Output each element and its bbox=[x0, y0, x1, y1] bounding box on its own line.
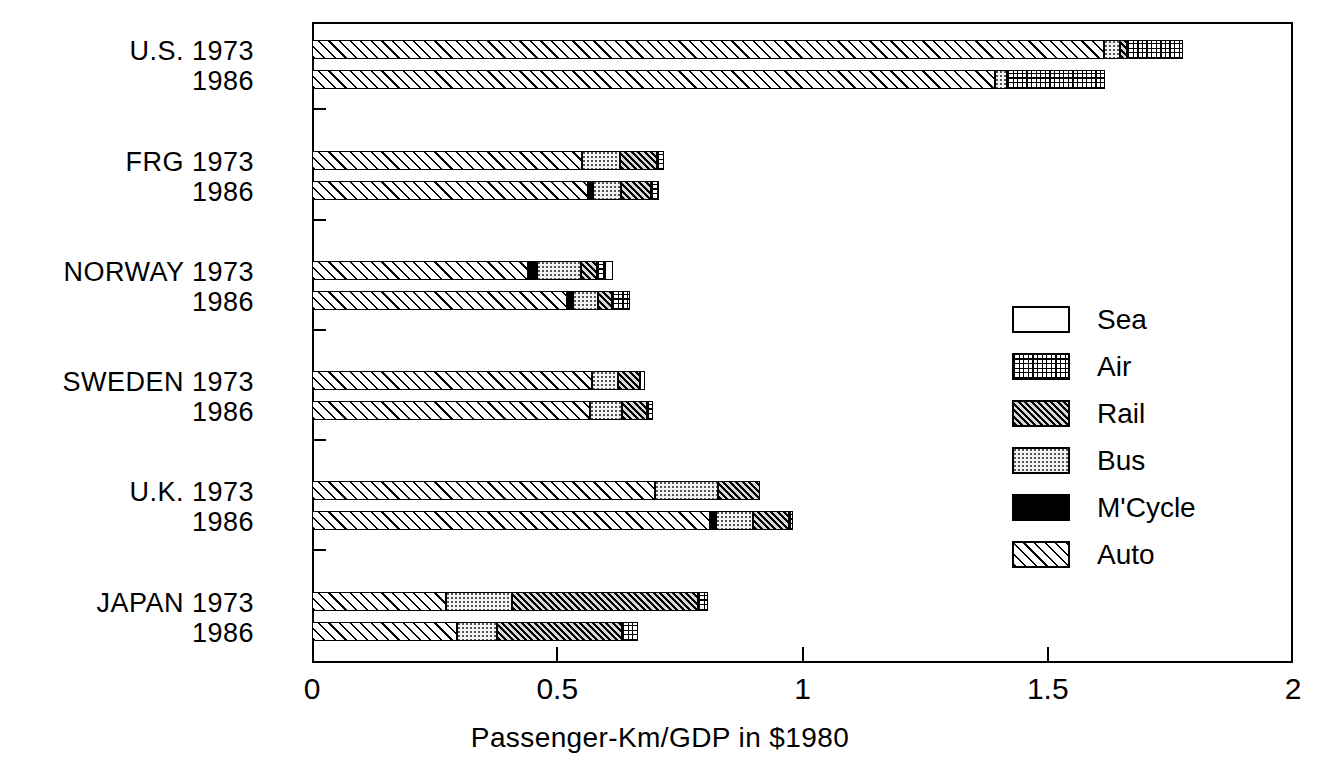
bar-segment-auto bbox=[312, 481, 655, 500]
bar-segment-auto bbox=[312, 371, 592, 390]
x-axis-tick-label: 0.5 bbox=[536, 672, 578, 706]
bar-segment-rail bbox=[581, 261, 597, 280]
bar-segment-bus bbox=[457, 622, 497, 641]
bar-norway-1986 bbox=[312, 291, 630, 310]
y-axis-label-frg-1986: 1986 bbox=[192, 176, 254, 207]
y-axis-label-japan-1986: 1986 bbox=[192, 617, 254, 648]
bar-segment-bus bbox=[582, 151, 620, 170]
legend-swatch-rail-icon bbox=[1012, 400, 1070, 427]
bar-segment-bus bbox=[592, 371, 618, 390]
bar-segment-rail bbox=[621, 181, 651, 200]
bar-segment-auto bbox=[312, 511, 710, 530]
bar-segment-auto bbox=[312, 622, 457, 641]
bar-frg-1986 bbox=[312, 181, 659, 200]
bar-segment-air bbox=[651, 181, 659, 200]
bar-segment-auto bbox=[312, 401, 590, 420]
bar-segment-auto bbox=[312, 181, 588, 200]
y-axis-tick bbox=[312, 329, 326, 331]
y-axis-tick bbox=[312, 219, 326, 221]
bar-segment-air bbox=[698, 592, 708, 611]
legend-label: Air bbox=[1097, 347, 1131, 387]
bar-segment-rail bbox=[622, 401, 647, 420]
legend-swatch-sea-icon bbox=[1012, 306, 1070, 333]
bar-segment-air bbox=[597, 261, 605, 280]
bar-segment-air bbox=[657, 151, 664, 170]
bar-segment-air bbox=[1127, 40, 1183, 59]
x-axis-tick bbox=[556, 647, 558, 663]
bar-segment-auto bbox=[312, 151, 582, 170]
bar-segment-auto bbox=[312, 70, 995, 89]
bar-segment-bus bbox=[446, 592, 512, 611]
bar-us-1973 bbox=[312, 40, 1183, 59]
bar-segment-bus bbox=[655, 481, 718, 500]
bar-segment-rail bbox=[598, 291, 612, 310]
y-axis-label-sweden-1973: SWEDEN 1973 bbox=[62, 366, 254, 397]
bar-segment-rail bbox=[497, 622, 622, 641]
bar-segment-air bbox=[647, 401, 653, 420]
bar-japan-1973 bbox=[312, 592, 708, 611]
y-axis-tick bbox=[312, 439, 326, 441]
bar-segment-mcycle bbox=[528, 261, 537, 280]
bar-segment-auto bbox=[312, 261, 528, 280]
y-axis-label-uk-1973: U.K. 1973 bbox=[129, 476, 254, 507]
legend-label: Auto bbox=[1097, 535, 1155, 575]
y-axis-label-frg-1973: FRG 1973 bbox=[125, 146, 254, 177]
bar-segment-rail bbox=[718, 481, 760, 500]
x-axis-tick-label: 2 bbox=[1285, 672, 1302, 706]
bar-segment-sea bbox=[605, 261, 613, 280]
bar-segment-bus bbox=[573, 291, 598, 310]
legend-label: Rail bbox=[1097, 394, 1145, 434]
x-axis-tick-label: 1 bbox=[794, 672, 811, 706]
legend-label: M'Cycle bbox=[1097, 488, 1196, 528]
bar-japan-1986 bbox=[312, 622, 637, 641]
bar-sweden-1986 bbox=[312, 401, 653, 420]
bar-segment-bus bbox=[590, 401, 622, 420]
bar-segment-bus bbox=[1104, 40, 1120, 59]
y-axis-label-us-1973: U.S. 1973 bbox=[129, 35, 254, 66]
bar-segment-air bbox=[622, 622, 637, 641]
y-axis-label-us-1986: 1986 bbox=[192, 65, 254, 96]
legend-swatch-mcycle-icon bbox=[1012, 494, 1070, 521]
legend-swatch-air-icon bbox=[1012, 353, 1070, 380]
bar-segment-air bbox=[789, 511, 793, 530]
bar-segment-auto bbox=[312, 40, 1104, 59]
legend-swatch-bus-icon bbox=[1012, 447, 1070, 474]
x-axis-tick-label: 1.5 bbox=[1027, 672, 1069, 706]
y-axis-label-sweden-1986: 1986 bbox=[192, 396, 254, 427]
y-axis-label-norway-1986: 1986 bbox=[192, 286, 254, 317]
bar-segment-rail bbox=[753, 511, 789, 530]
y-axis-label-uk-1986: 1986 bbox=[192, 506, 254, 537]
bar-segment-rail bbox=[618, 371, 640, 390]
y-axis-label-norway-1973: NORWAY 1973 bbox=[63, 256, 254, 287]
bar-segment-air bbox=[612, 291, 630, 310]
bar-segment-air bbox=[1007, 70, 1105, 89]
bar-segment-bus bbox=[537, 261, 581, 280]
bar-segment-rail bbox=[1120, 40, 1127, 59]
x-axis-title: Passenger-Km/GDP in $1980 bbox=[0, 722, 1320, 754]
bar-uk-1973 bbox=[312, 481, 760, 500]
bar-segment-rail bbox=[512, 592, 698, 611]
y-axis-label-japan-1973: JAPAN 1973 bbox=[96, 587, 254, 618]
chart-root: U.S. 19731986FRG 19731986NORWAY 19731986… bbox=[0, 0, 1320, 777]
x-axis-tick bbox=[802, 647, 804, 663]
legend-label: Bus bbox=[1097, 441, 1145, 481]
bar-frg-1973 bbox=[312, 151, 664, 170]
y-axis-tick bbox=[312, 549, 326, 551]
x-axis-tick bbox=[1047, 647, 1049, 663]
legend-swatch-auto-icon bbox=[1012, 541, 1070, 568]
bar-segment-rail bbox=[620, 151, 657, 170]
bar-sweden-1973 bbox=[312, 371, 645, 390]
y-axis-tick bbox=[312, 108, 326, 110]
bar-segment-bus bbox=[716, 511, 753, 530]
bar-segment-bus bbox=[995, 70, 1007, 89]
legend-label: Sea bbox=[1097, 300, 1147, 340]
bar-us-1986 bbox=[312, 70, 1105, 89]
bar-uk-1986 bbox=[312, 511, 793, 530]
bar-segment-auto bbox=[312, 291, 567, 310]
x-axis-tick-label: 0 bbox=[304, 672, 321, 706]
bar-segment-sea bbox=[640, 371, 645, 390]
bar-segment-bus bbox=[593, 181, 621, 200]
y-axis-labels: U.S. 19731986FRG 19731986NORWAY 19731986… bbox=[0, 0, 300, 700]
bar-segment-auto bbox=[312, 592, 446, 611]
bar-norway-1973 bbox=[312, 261, 613, 280]
